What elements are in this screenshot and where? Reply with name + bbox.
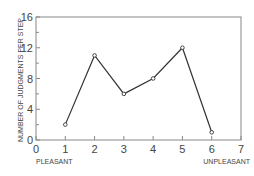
unpleasant-label: UNPLEASANT [203, 158, 250, 165]
x-tick-label: 1 [62, 143, 68, 155]
x-tick-label: 3 [121, 143, 127, 155]
y-tick-label: 4 [27, 103, 33, 115]
x-tick-label: 0 [33, 143, 39, 155]
x-tick-label: 2 [92, 143, 98, 155]
data-markers [63, 46, 213, 134]
y-axis-label: NUMBER OF JUDGMENTS PER STEP [17, 18, 24, 142]
line-chart: 0481216 01234567 NUMBER OF JUDGMENTS PER… [0, 0, 254, 176]
data-point [63, 123, 67, 127]
data-point [210, 131, 214, 135]
pleasant-label: PLEASANT [36, 158, 73, 165]
x-tick-label: 5 [179, 143, 185, 155]
data-point [93, 54, 97, 58]
y-tick-label: 8 [27, 73, 33, 85]
data-point [122, 92, 126, 96]
data-point [151, 77, 155, 81]
x-tick-label: 7 [238, 143, 244, 155]
data-point [181, 46, 185, 50]
data-line [65, 48, 211, 133]
x-axis-ticks: 01234567 [33, 136, 244, 155]
x-tick-label: 4 [150, 143, 156, 155]
x-tick-label: 6 [209, 143, 215, 155]
